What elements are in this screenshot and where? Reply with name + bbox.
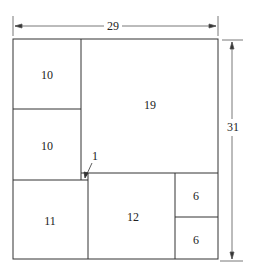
square-label-19: 19 bbox=[144, 98, 156, 112]
square-label-6-top: 6 bbox=[193, 189, 199, 203]
square-label-1: 1 bbox=[92, 149, 98, 163]
height-dimension bbox=[220, 40, 243, 261]
square-label-6-bottom: 6 bbox=[193, 233, 199, 247]
square-label-11: 11 bbox=[44, 214, 56, 228]
square-label-12: 12 bbox=[127, 210, 139, 224]
width-label: 29 bbox=[107, 19, 119, 33]
square-label-10-bottom: 10 bbox=[41, 139, 53, 153]
squared-rectangle-diagram: 29 31 10 10 19 1 11 12 6 6 bbox=[0, 0, 256, 273]
square-label-10-top: 10 bbox=[41, 68, 53, 82]
height-label: 31 bbox=[227, 120, 239, 134]
